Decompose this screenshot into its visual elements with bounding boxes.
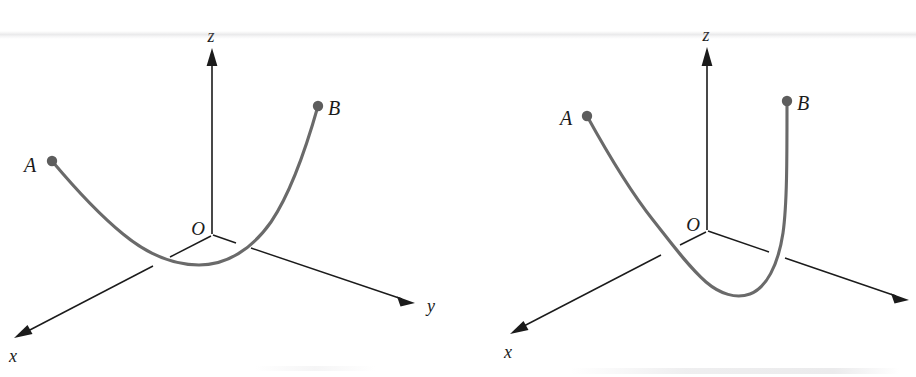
z-axis-label-right: z [701, 25, 709, 45]
figure-panel-right: A B O z x [458, 0, 916, 377]
x-axis-label-left: x [8, 346, 17, 366]
origin-label-right: O [686, 214, 700, 235]
point-label-a-left: A [22, 154, 37, 176]
x-axis-segment-inner-left [170, 236, 211, 257]
x-axis-right [510, 232, 706, 334]
y-axis-right [708, 231, 909, 304]
y-axis-left [213, 235, 415, 307]
y-axis-arrowhead-left [397, 297, 415, 307]
x-axis-left [14, 236, 211, 338]
z-axis-arrowhead-right [702, 47, 713, 66]
y-axis-segment-outer-right [785, 258, 896, 296]
z-axis-left [207, 48, 218, 234]
point-label-b-left: B [328, 97, 340, 119]
x-axis-arrowhead-left [14, 325, 33, 338]
point-marker-b-right [782, 96, 792, 106]
point-label-b-right: B [797, 92, 809, 114]
z-axis-arrowhead-left [207, 48, 218, 66]
y-axis-segment-inner-left [213, 235, 236, 243]
y-axis-segment-outer-left [251, 248, 402, 299]
space-curve-right [587, 103, 787, 296]
space-curve-left [52, 106, 318, 265]
x-axis-arrowhead-right [510, 321, 529, 334]
figure-sheet: A B O z y x [0, 0, 916, 377]
z-axis-right [702, 47, 713, 230]
x-axis-label-right: x [503, 342, 512, 362]
point-marker-a-left [47, 156, 57, 166]
y-axis-segment-inner-right [708, 231, 769, 252]
point-marker-a-right [582, 111, 592, 121]
y-axis-label-left: y [425, 296, 435, 316]
y-axis-arrowhead-right [891, 294, 909, 304]
figure-panel-left: A B O z y x [0, 0, 458, 377]
point-label-a-right: A [558, 107, 573, 129]
x-axis-segment-outer-right [522, 255, 661, 327]
point-marker-b-left [313, 101, 323, 111]
origin-label-left: O [191, 218, 205, 239]
coordinate-diagram-right: A B O z x [458, 0, 916, 377]
z-axis-label-left: z [206, 26, 214, 46]
x-axis-segment-outer-left [26, 266, 153, 332]
coordinate-diagram-left: A B O z y x [0, 0, 458, 377]
